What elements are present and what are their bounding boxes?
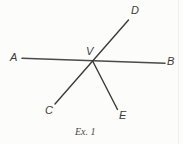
figure-canvas <box>0 0 183 144</box>
point-label-e: E <box>119 110 126 121</box>
ray-ve <box>93 61 118 110</box>
point-label-v: V <box>86 46 93 57</box>
geometry-figure: A B C D E V Ex. 1 <box>0 0 183 144</box>
point-label-c: C <box>45 105 53 116</box>
point-label-b: B <box>167 56 174 67</box>
right-edge-rule <box>178 0 179 144</box>
point-label-a: A <box>10 52 17 63</box>
figure-caption: Ex. 1 <box>75 127 96 137</box>
point-label-d: D <box>131 5 139 16</box>
